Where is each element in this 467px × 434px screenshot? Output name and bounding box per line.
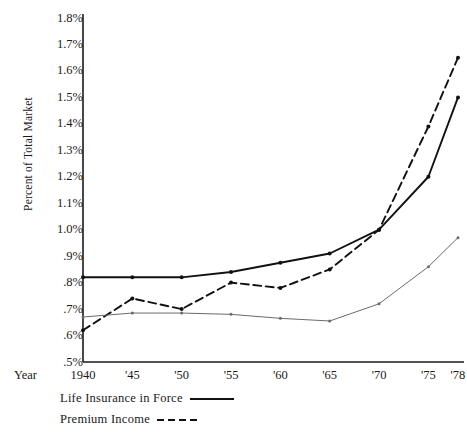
legend-swatch-dashed-icon (157, 416, 203, 424)
data-point-marker (81, 328, 85, 332)
data-point-marker (180, 312, 183, 315)
data-point-marker (426, 124, 430, 128)
x-tick-label: '78 (435, 369, 467, 382)
chart-legend: Life Insurance in Force Premium Income (60, 388, 460, 430)
data-point-marker (426, 175, 430, 179)
data-point-marker (229, 270, 233, 274)
data-point-marker (377, 228, 381, 232)
data-point-marker (180, 275, 184, 279)
data-point-marker (457, 236, 460, 239)
data-point-marker (456, 95, 460, 99)
data-point-marker (456, 56, 460, 60)
series-line (83, 238, 458, 321)
x-tick-label: '50 (159, 369, 205, 382)
x-tick-label: '60 (257, 369, 303, 382)
data-point-marker (278, 286, 282, 290)
legend-item-life-insurance-in-force: Life Insurance in Force (60, 388, 460, 409)
axis-lines (83, 14, 464, 362)
legend-label: Premium Income (60, 412, 150, 427)
data-point-marker (328, 252, 332, 256)
data-point-marker (378, 302, 381, 305)
legend-item-premium-income: Premium Income (60, 409, 460, 430)
data-point-marker (130, 275, 134, 279)
x-tick-label: '70 (356, 369, 402, 382)
data-point-marker (229, 281, 233, 285)
series-line (83, 97, 458, 277)
legend-label: Life Insurance in Force (60, 391, 183, 406)
data-point-marker (328, 319, 331, 322)
data-point-marker (81, 275, 85, 279)
data-point-marker (131, 312, 134, 315)
data-point-marker (278, 261, 282, 265)
data-series-group (81, 56, 460, 333)
data-point-marker (427, 265, 430, 268)
legend-swatch-solid-icon (190, 395, 236, 403)
x-axis-title: Year (14, 368, 37, 383)
x-tick-label: 1940 (60, 369, 106, 382)
data-point-marker (130, 296, 134, 300)
chart-figure: Percent of Total Market .5%.6%.7%.8%.9%1… (0, 0, 467, 434)
data-point-marker (279, 317, 282, 320)
x-tick-label: '55 (208, 369, 254, 382)
data-point-marker (180, 307, 184, 311)
series-line (83, 58, 458, 331)
x-tick-label: '65 (307, 369, 353, 382)
data-point-marker (230, 313, 233, 316)
data-point-marker (328, 267, 332, 271)
x-tick-label: '45 (109, 369, 155, 382)
data-point-marker (82, 316, 85, 319)
